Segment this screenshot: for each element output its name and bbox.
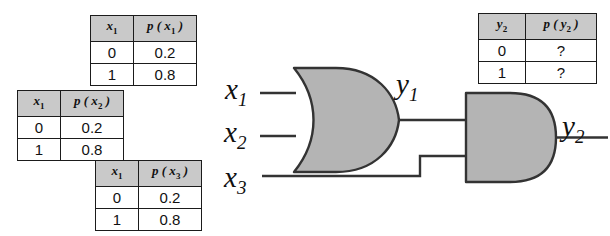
header-probability: p ( x3 ): [139, 161, 202, 187]
header-variable: x1: [96, 161, 139, 187]
cell-value: 1: [479, 61, 526, 83]
probability-table-x3: x1 p ( x3 ) 0 0.2 1 0.8: [95, 160, 202, 231]
signal-label-x2: x2: [224, 118, 246, 152]
cell-value: 0: [96, 186, 139, 208]
header-probability: p ( x1 ): [134, 16, 197, 42]
table-header-row: x1 p ( x2 ): [18, 91, 124, 117]
cell-probability: ?: [526, 39, 597, 61]
cell-value: 1: [96, 208, 139, 230]
header-variable: x1: [18, 91, 61, 117]
probability-table-y2: y2 p ( y2 ) 0 ? 1 ?: [478, 13, 597, 84]
header-variable: y2: [479, 14, 526, 40]
table-header-row: y2 p ( y2 ): [479, 14, 597, 40]
header-variable: x1: [91, 16, 134, 42]
cell-probability: 0.2: [61, 116, 124, 138]
table-row: 1 ?: [479, 61, 597, 83]
cell-probability: 0.8: [139, 208, 202, 230]
cell-value: 1: [91, 63, 134, 85]
cell-probability: ?: [526, 61, 597, 83]
cell-probability: 0.2: [139, 186, 202, 208]
table-header-row: x1 p ( x1 ): [91, 16, 197, 42]
cell-probability: 0.8: [61, 138, 124, 160]
cell-value: 0: [479, 39, 526, 61]
cell-value: 0: [18, 116, 61, 138]
table-row: 0 0.2: [91, 41, 197, 63]
probability-table-x1: x1 p ( x1 ) 0 0.2 1 0.8: [90, 15, 197, 86]
header-probability: p ( y2 ): [526, 14, 597, 40]
table-row: 1 0.8: [96, 208, 202, 230]
signal-label-x3: x3: [224, 163, 246, 197]
cell-probability: 0.2: [134, 41, 197, 63]
cell-probability: 0.8: [134, 63, 197, 85]
table-row: 0 ?: [479, 39, 597, 61]
table-row: 1 0.8: [91, 63, 197, 85]
logic-circuit-diagram: x1 x2 x3 y1 y2 x1 p ( x1 ) 0 0.2 1 0.8: [0, 0, 610, 236]
signal-label-y1: y1: [396, 70, 418, 104]
cell-value: 1: [18, 138, 61, 160]
probability-table-x2: x1 p ( x2 ) 0 0.2 1 0.8: [17, 90, 124, 161]
cell-value: 0: [91, 41, 134, 63]
header-probability: p ( x2 ): [61, 91, 124, 117]
and-gate-shape: [466, 93, 556, 182]
table-row: 1 0.8: [18, 138, 124, 160]
table-header-row: x1 p ( x3 ): [96, 161, 202, 187]
table-row: 0 0.2: [96, 186, 202, 208]
signal-label-x1: x1: [225, 75, 247, 109]
signal-label-y2: y2: [562, 112, 584, 146]
or-gate-shape: [294, 68, 399, 172]
table-row: 0 0.2: [18, 116, 124, 138]
